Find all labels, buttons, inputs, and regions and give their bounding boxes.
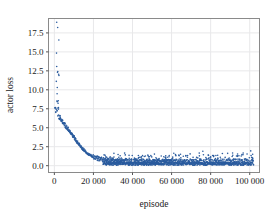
data-point	[162, 159, 164, 161]
data-point	[210, 156, 212, 158]
data-point	[187, 155, 189, 157]
data-point	[237, 156, 239, 158]
data-point	[125, 158, 127, 160]
data-point	[119, 155, 121, 157]
data-point	[148, 156, 150, 158]
data-point	[131, 155, 133, 157]
data-point	[158, 158, 160, 160]
data-point	[180, 160, 182, 162]
data-point	[62, 119, 64, 121]
data-point	[180, 153, 182, 155]
data-point	[168, 155, 170, 157]
data-point	[138, 155, 140, 157]
data-point	[223, 159, 225, 161]
data-point	[154, 153, 156, 155]
data-point	[209, 159, 211, 161]
data-point	[128, 158, 130, 160]
data-point	[136, 159, 138, 161]
data-point	[208, 157, 210, 159]
data-point	[239, 158, 241, 160]
data-point	[77, 140, 79, 142]
actor-loss-chart: 020 00040 00060 00080 000100 000 0.02.55…	[0, 0, 280, 214]
x-tick-label: 20 000	[81, 176, 106, 186]
data-point	[250, 150, 252, 152]
data-point	[204, 162, 206, 164]
data-point	[124, 152, 126, 154]
data-point	[242, 152, 244, 154]
x-tick-label: 60 000	[159, 176, 184, 186]
data-point	[184, 159, 186, 161]
y-tick-label: 5.0	[32, 123, 44, 133]
data-point	[206, 158, 208, 160]
data-point	[207, 154, 209, 156]
y-tick-label: 0.0	[32, 161, 44, 171]
data-point	[104, 160, 106, 162]
data-point	[237, 153, 239, 155]
data-point	[172, 158, 174, 160]
data-point	[56, 87, 58, 89]
data-point	[203, 154, 205, 156]
data-point	[151, 156, 153, 158]
data-point	[56, 93, 58, 95]
data-point	[253, 164, 255, 166]
data-point	[136, 160, 138, 162]
data-point	[231, 161, 233, 163]
data-point	[67, 127, 69, 129]
data-point	[215, 158, 217, 160]
data-point	[212, 160, 214, 162]
data-point	[198, 152, 200, 154]
data-point	[180, 157, 182, 159]
x-axis-label: episode	[139, 199, 168, 209]
data-point	[152, 159, 154, 161]
y-tick-label: 2.5	[32, 142, 44, 152]
y-axis-label: actor loss	[5, 77, 15, 113]
data-point	[58, 108, 60, 110]
data-point	[235, 159, 237, 161]
data-point	[226, 159, 228, 161]
data-point	[250, 160, 252, 162]
data-point	[56, 81, 58, 83]
data-point	[217, 154, 219, 156]
data-point	[58, 75, 60, 77]
data-point	[113, 153, 115, 155]
data-point	[149, 159, 151, 161]
data-point	[163, 156, 165, 158]
data-point	[249, 157, 251, 159]
data-point	[117, 154, 119, 156]
data-point	[64, 123, 66, 125]
data-point	[178, 155, 180, 157]
x-tick-label: 80 000	[198, 176, 223, 186]
data-point	[237, 158, 239, 160]
data-point	[232, 154, 234, 156]
data-point	[185, 155, 187, 157]
data-point	[224, 157, 226, 159]
data-point	[155, 157, 157, 159]
data-point	[227, 153, 229, 155]
data-point	[143, 159, 145, 161]
data-point	[142, 155, 144, 157]
data-point	[110, 156, 112, 158]
x-tick-label: 40 000	[120, 176, 145, 186]
data-point	[138, 162, 140, 164]
data-point	[219, 160, 221, 162]
data-point	[175, 164, 177, 166]
data-point	[196, 157, 198, 159]
data-point	[188, 160, 190, 162]
data-point	[203, 159, 205, 161]
data-point	[97, 160, 99, 162]
data-point	[157, 162, 159, 164]
data-point	[56, 110, 58, 112]
data-point	[160, 161, 162, 163]
data-point	[106, 159, 108, 161]
data-point	[128, 155, 130, 157]
data-point	[176, 159, 178, 161]
data-point	[247, 162, 249, 164]
data-point	[251, 164, 253, 166]
x-tick-label: 100 000	[235, 176, 265, 186]
y-tick-label: 12.5	[28, 66, 44, 76]
data-point	[222, 158, 224, 160]
data-point	[57, 71, 59, 73]
data-point	[55, 111, 57, 113]
data-point	[136, 162, 138, 164]
data-point	[108, 161, 110, 163]
